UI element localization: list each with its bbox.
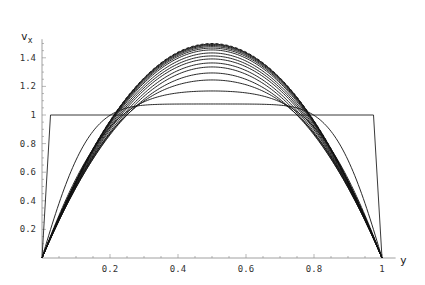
x-tick-label: 1 [379, 264, 384, 274]
transient-profile-curve [42, 73, 382, 258]
profile-curves [42, 44, 382, 259]
transient-profile-curve [42, 80, 382, 258]
x-tick-label: 0.6 [238, 264, 254, 274]
transient-profile-curve [42, 91, 382, 258]
y-tick-label: 1.2 [20, 81, 36, 91]
y-axis-label: vx [21, 30, 33, 45]
transient-profile-curve [42, 63, 382, 258]
y-tick-label: 0.4 [20, 196, 36, 206]
axes: 0.20.40.60.810.20.40.60.811.21.4 [20, 39, 396, 274]
x-axis-label: y [400, 254, 407, 267]
x-tick-label: 0.2 [102, 264, 118, 274]
transient-profile-curve [42, 67, 382, 258]
transient-profile-curve [42, 104, 382, 258]
y-tick-label: 0.6 [20, 167, 36, 177]
x-tick-label: 0.8 [306, 264, 322, 274]
y-tick-label: 1 [31, 110, 36, 120]
x-tick-label: 0.4 [170, 264, 186, 274]
y-tick-label: 0.2 [20, 224, 36, 234]
chart: 0.20.40.60.810.20.40.60.811.21.4 vx y [0, 0, 425, 285]
y-tick-label: 0.8 [20, 139, 36, 149]
initial-profile-curve [42, 115, 382, 258]
y-tick-label: 1.4 [20, 53, 36, 63]
